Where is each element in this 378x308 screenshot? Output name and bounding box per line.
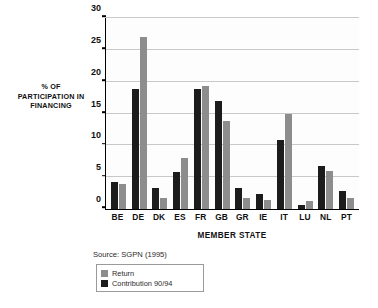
legend-label-contribution: Contribution 90/94 [112, 279, 172, 288]
bar-return [347, 198, 354, 209]
bar-group [316, 18, 337, 209]
bar-contribution [277, 140, 284, 209]
legend: Return Contribution 90/94 [96, 264, 204, 292]
x-axis-tick-label: DK [149, 212, 170, 222]
y-axis-tick-label: 30 [91, 3, 101, 13]
bar-return [223, 121, 230, 209]
y-axis-tick-mark [102, 16, 106, 18]
y-axis-tick-label: 15 [91, 99, 101, 109]
y-axis-tick-label: 5 [96, 162, 101, 172]
bar-group [191, 18, 212, 209]
source-note: Source: SGPN (1995) [93, 250, 167, 259]
bar-contribution [152, 188, 159, 209]
bar-contribution [132, 89, 139, 209]
x-axis-tick-label: FR [190, 212, 211, 222]
x-axis-tick-label: NL [315, 212, 336, 222]
bar-contribution [215, 101, 222, 209]
bar-contribution [111, 182, 118, 209]
bar-return [202, 86, 209, 210]
x-axis-tick-labels: BEDEDKESFRGBGRIEITLUNLPT [105, 212, 359, 222]
y-axis-tick-label: 0 [96, 194, 101, 204]
bar-group [274, 18, 295, 209]
bar-groups [106, 18, 359, 209]
bar-contribution [318, 166, 325, 209]
bar-group [150, 18, 171, 209]
x-axis-title: MEMBER STATE [105, 231, 359, 240]
bar-contribution [339, 191, 346, 209]
bar-group [295, 18, 316, 209]
bar-return [160, 198, 167, 209]
bar-group [129, 18, 150, 209]
y-axis-title-line-1: % OF [8, 82, 94, 92]
bar-return [306, 201, 313, 209]
x-axis-tick-label: LU [294, 212, 315, 222]
x-axis-tick-label: ES [169, 212, 190, 222]
bar-group [212, 18, 233, 209]
bar-return [119, 184, 126, 209]
y-axis-tick-label: 25 [91, 35, 101, 45]
bar-chart: % OF PARTICIPATION IN FINANCING 05101520… [0, 0, 378, 308]
bar-return [243, 198, 250, 209]
legend-swatch-return-icon [101, 270, 108, 277]
bar-group [253, 18, 274, 209]
legend-swatch-contribution-icon [101, 280, 108, 287]
x-axis-tick-label: DE [128, 212, 149, 222]
bar-return [140, 37, 147, 209]
bar-group [170, 18, 191, 209]
x-axis-tick-label: IT [274, 212, 295, 222]
x-axis-tick-label: GB [211, 212, 232, 222]
bar-contribution [173, 172, 180, 209]
bar-group [233, 18, 254, 209]
bar-contribution [194, 89, 201, 209]
x-axis-tick-label: IE [253, 212, 274, 222]
plot-area: 051015202530 [105, 18, 359, 210]
y-axis-title-line-3: FINANCING [8, 101, 94, 111]
bar-return [264, 200, 271, 209]
y-axis-tick-label: 10 [91, 130, 101, 140]
x-axis-tick-label: PT [336, 212, 357, 222]
bar-contribution [298, 205, 305, 209]
bar-return [285, 114, 292, 209]
legend-label-return: Return [112, 269, 134, 278]
bar-return [326, 171, 333, 209]
x-axis-tick-label: BE [107, 212, 128, 222]
x-axis-tick-label: GR [232, 212, 253, 222]
legend-item-contribution: Contribution 90/94 [101, 278, 199, 288]
y-axis-title: % OF PARTICIPATION IN FINANCING [8, 82, 94, 111]
y-axis-tick-label: 20 [91, 67, 101, 77]
bar-group [336, 18, 357, 209]
legend-item-return: Return [101, 268, 199, 278]
bar-return [181, 158, 188, 209]
bar-contribution [235, 188, 242, 209]
bar-group [108, 18, 129, 209]
bar-contribution [256, 194, 263, 209]
y-axis-title-line-2: PARTICIPATION IN [8, 92, 94, 102]
